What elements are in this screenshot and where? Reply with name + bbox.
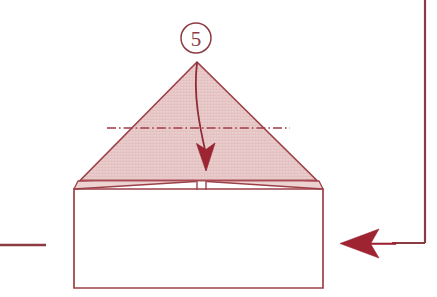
side-arrow-group — [340, 229, 396, 258]
rectangular-base-group — [74, 189, 323, 288]
diagram-canvas: 5 — [0, 0, 437, 297]
step-badge-label: 5 — [191, 27, 202, 51]
step-number-badge: 5 — [181, 23, 211, 53]
previous-step-arrow-icon — [340, 229, 396, 258]
base-rectangle-shape — [74, 189, 323, 288]
origami-step-diagram: 5 — [0, 0, 437, 297]
